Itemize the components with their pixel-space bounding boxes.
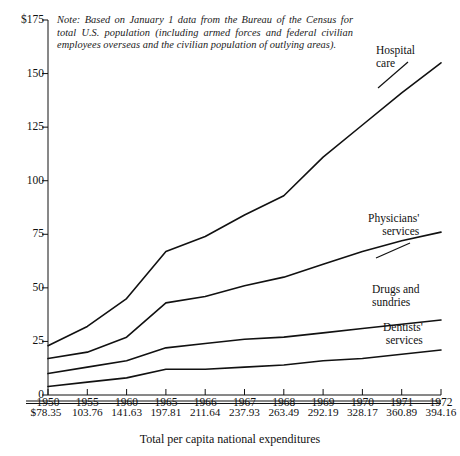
series-label-3: Drugs andsundries <box>372 283 420 308</box>
x-axis-expenditure-label: 237.93 <box>229 406 260 418</box>
series-label-4: Dentists'services <box>383 321 423 346</box>
x-axis-expenditure-label: 328.17 <box>347 406 378 418</box>
series-label-line-2: care <box>376 57 415 70</box>
series-label-leader <box>376 243 410 258</box>
series-label-2: Physicians'services <box>368 212 419 237</box>
y-axis-ticks <box>42 20 48 395</box>
chart-note: Note: Based on January 1 data from the B… <box>57 14 353 52</box>
x-axis-expenditure-label: 263.49 <box>268 406 299 418</box>
series-label-line-2: sundries <box>372 296 420 309</box>
series-label-line-1: Physicians' <box>368 212 419 225</box>
x-axis-caption: Total per capita national expenditures <box>0 432 460 447</box>
series-label-line-1: Drugs and <box>372 283 420 296</box>
x-axis-expenditure-label: 292.19 <box>308 406 339 418</box>
x-axis-expenditure-label: 360.89 <box>386 406 417 418</box>
x-axis-expenditure-label: 103.76 <box>72 406 103 418</box>
x-axis-expenditure-label: 394.16 <box>426 406 457 418</box>
chart-container: $1751501251007550250 Note: Based on Janu… <box>0 0 460 456</box>
series-label-line-2: services <box>383 334 423 347</box>
series-label-line-1: Hospital <box>376 44 415 57</box>
series-label-1: Hospitalcare <box>376 44 415 69</box>
x-axis-expenditure-label: 211.64 <box>190 406 220 418</box>
x-axis-expenditure-label: 197.81 <box>151 406 182 418</box>
x-axis-expenditure-label: 141.63 <box>111 406 142 418</box>
series-label-line-2: services <box>368 225 419 238</box>
x-axis-expenditure-label: $78.35 <box>31 406 62 418</box>
series-label-line-1: Dentists' <box>383 321 423 334</box>
series-line <box>48 350 441 386</box>
x-axis-ticks <box>48 389 441 395</box>
